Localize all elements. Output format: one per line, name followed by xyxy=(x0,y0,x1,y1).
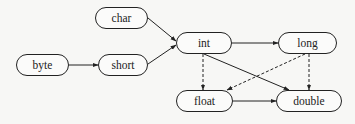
node-label: long xyxy=(297,37,317,49)
edge-long-float xyxy=(227,54,305,90)
node-int: int xyxy=(176,32,232,54)
node-byte: byte xyxy=(16,54,69,76)
type-conversion-diagram: char byte short int long float double xyxy=(0,0,355,124)
node-label: short xyxy=(112,59,135,71)
node-label: byte xyxy=(33,59,53,71)
node-float: float xyxy=(176,90,233,112)
node-long: long xyxy=(278,32,337,54)
edge-char-int xyxy=(148,18,176,41)
node-label: float xyxy=(194,95,215,107)
edge-int-double xyxy=(204,54,289,90)
node-char: char xyxy=(95,7,148,29)
node-label: double xyxy=(293,95,324,107)
node-short: short xyxy=(98,54,148,76)
node-double: double xyxy=(276,90,342,112)
node-label: char xyxy=(112,12,132,24)
edge-short-int xyxy=(148,45,176,64)
node-label: int xyxy=(198,37,210,49)
